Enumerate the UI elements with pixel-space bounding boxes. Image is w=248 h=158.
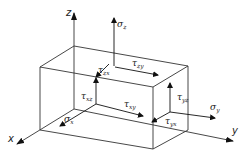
sigma-z-label: σz: [117, 19, 127, 30]
sigma-y-arrow: [170, 112, 215, 118]
tau-zx-label: τzx: [98, 65, 110, 76]
axes: [17, 13, 233, 144]
sigma-y-label: σy: [210, 102, 220, 114]
y-axis: [74, 109, 233, 141]
tau-zy-label: τzy: [132, 58, 144, 70]
tau-yx-label: τyx: [165, 116, 177, 128]
z-axis-label: z: [65, 7, 72, 18]
tau-xz-label: τxz: [81, 91, 93, 102]
tau-xy-arrow: [96, 104, 143, 116]
sigma-x-label: σx: [64, 114, 74, 125]
tau-yz-label: τyz: [177, 92, 189, 104]
stress-element-diagram: z x y σz τzx τzy τxz τxy σx τyz τyx σy: [0, 0, 248, 158]
y-axis-label: y: [231, 125, 239, 136]
stress-arrows: [60, 18, 215, 126]
tau-xy-label: τxy: [124, 99, 136, 111]
x-axis-label: x: [7, 133, 14, 144]
